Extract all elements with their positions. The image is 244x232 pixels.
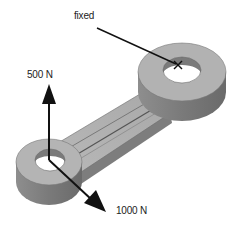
large-ring [138, 43, 226, 121]
force-500n-label: 500 N [27, 69, 53, 80]
connecting-rod-diagram [0, 0, 244, 232]
force-1000n-label: 1000 N [116, 205, 147, 216]
fixed-label: fixed [74, 10, 94, 21]
